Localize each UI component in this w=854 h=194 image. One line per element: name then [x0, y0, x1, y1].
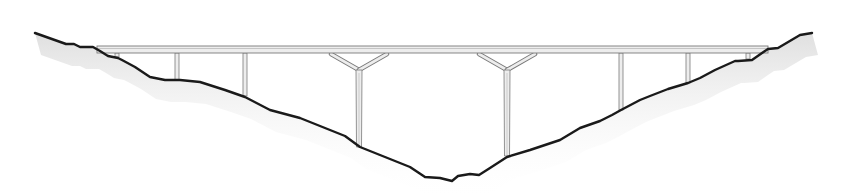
- ground-hatching: [35, 33, 818, 194]
- bridge-drawing: [0, 0, 854, 194]
- abutment-right: [746, 53, 750, 59]
- pier-4: [479, 54, 535, 156]
- pier-6: [686, 53, 690, 83]
- terrain-shadow: [35, 33, 818, 194]
- pier-5: [619, 53, 623, 110]
- bridge-deck: [97, 46, 768, 53]
- terrain-profile-line: [35, 33, 812, 181]
- pier-1: [175, 53, 179, 80]
- bridge-elevation-diagram: [0, 0, 854, 194]
- pier-2: [243, 53, 247, 96]
